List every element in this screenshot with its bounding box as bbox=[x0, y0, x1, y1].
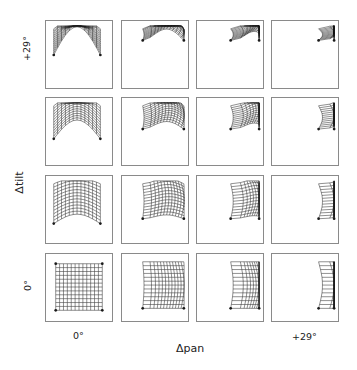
x-tick-label-left: 0° bbox=[73, 330, 84, 341]
mesh-icon bbox=[197, 176, 263, 243]
mesh-icon bbox=[46, 21, 112, 88]
y-tick-label-bottom: 0° bbox=[22, 280, 33, 291]
mesh-icon bbox=[46, 254, 112, 321]
y-tick-label-top: +29° bbox=[21, 36, 32, 61]
mesh-icon bbox=[122, 21, 188, 88]
panel-r2-c1 bbox=[121, 175, 189, 244]
mesh-icon bbox=[122, 176, 188, 243]
panel-r2-c0 bbox=[45, 175, 113, 244]
mesh-icon bbox=[122, 254, 188, 321]
panel-r2-c2 bbox=[196, 175, 264, 244]
panel-r1-c3 bbox=[271, 97, 339, 166]
mesh-icon bbox=[272, 21, 338, 88]
mesh-icon bbox=[197, 254, 263, 321]
panel-r2-c3 bbox=[271, 175, 339, 244]
mesh-icon bbox=[197, 21, 263, 88]
mesh-icon bbox=[46, 176, 112, 243]
panel-r1-c1 bbox=[121, 97, 189, 166]
panel-r0-c0 bbox=[45, 20, 113, 89]
x-tick-label-right: +29° bbox=[292, 331, 317, 342]
x-axis-title: Δpan bbox=[176, 342, 204, 355]
panel-r3-c0 bbox=[45, 253, 113, 322]
mesh-icon bbox=[197, 98, 263, 165]
panel-r0-c2 bbox=[196, 20, 264, 89]
panel-r3-c1 bbox=[121, 253, 189, 322]
panel-r3-c2 bbox=[196, 253, 264, 322]
mesh-icon bbox=[122, 98, 188, 165]
panel-r1-c0 bbox=[45, 97, 113, 166]
panel-r0-c3 bbox=[271, 20, 339, 89]
y-axis-title: Δtilt bbox=[13, 171, 26, 193]
mesh-icon bbox=[272, 176, 338, 243]
mesh-icon bbox=[272, 98, 338, 165]
panel-r0-c1 bbox=[121, 20, 189, 89]
panel-r3-c3 bbox=[271, 253, 339, 322]
mesh-icon bbox=[46, 98, 112, 165]
mesh-icon bbox=[272, 254, 338, 321]
panel-r1-c2 bbox=[196, 97, 264, 166]
